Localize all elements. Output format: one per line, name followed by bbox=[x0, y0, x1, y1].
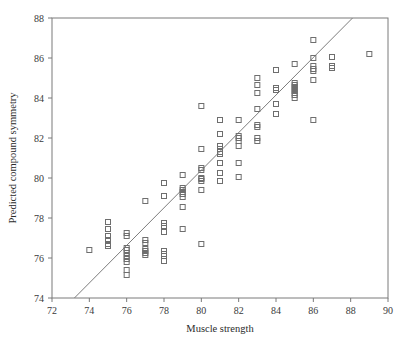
scatter-plot-figure: 72747678808284868890 7476788082848688 Mu… bbox=[0, 0, 412, 339]
data-point-marker bbox=[218, 132, 223, 137]
data-point-marker bbox=[311, 38, 316, 43]
data-point-marker bbox=[180, 205, 185, 210]
x-axis-tick-labels: 72747678808284868890 bbox=[47, 305, 393, 316]
data-point-marker bbox=[311, 78, 316, 83]
axes-frame bbox=[52, 18, 388, 298]
x-tick-label: 90 bbox=[383, 305, 393, 316]
plot-frame bbox=[52, 18, 388, 298]
data-points bbox=[87, 38, 372, 278]
data-point-marker bbox=[274, 112, 279, 117]
data-point-marker bbox=[236, 144, 241, 149]
data-point-marker bbox=[255, 91, 260, 96]
data-point-marker bbox=[255, 83, 260, 88]
y-tick-label: 84 bbox=[34, 93, 44, 104]
y-tick-label: 88 bbox=[34, 13, 44, 24]
x-tick-label: 78 bbox=[159, 305, 169, 316]
data-point-marker bbox=[274, 68, 279, 73]
y-tick-label: 76 bbox=[34, 253, 44, 264]
data-point-marker bbox=[199, 104, 204, 109]
y-axis-title: Predicted compound symmetry bbox=[7, 92, 18, 224]
data-point-marker bbox=[124, 268, 129, 273]
data-point-marker bbox=[180, 173, 185, 178]
data-point-marker bbox=[180, 227, 185, 232]
plot-canvas: 72747678808284868890 7476788082848688 Mu… bbox=[0, 0, 412, 339]
data-point-marker bbox=[236, 118, 241, 123]
data-point-marker bbox=[162, 194, 167, 199]
data-point-marker bbox=[330, 55, 335, 60]
data-point-marker bbox=[255, 76, 260, 81]
x-tick-label: 84 bbox=[271, 305, 281, 316]
x-tick-label: 74 bbox=[84, 305, 94, 316]
y-tick-label: 86 bbox=[34, 53, 44, 64]
y-tick-label: 78 bbox=[34, 213, 44, 224]
x-tick-label: 86 bbox=[308, 305, 318, 316]
data-point-marker bbox=[143, 199, 148, 204]
data-point-marker bbox=[255, 107, 260, 112]
data-point-marker bbox=[218, 171, 223, 176]
x-axis-title: Muscle strength bbox=[186, 323, 254, 334]
y-tick-label: 82 bbox=[34, 133, 44, 144]
data-point-marker bbox=[236, 175, 241, 180]
x-tick-label: 80 bbox=[196, 305, 206, 316]
data-point-marker bbox=[199, 188, 204, 193]
y-axis-ticks bbox=[48, 18, 52, 298]
data-point-marker bbox=[199, 242, 204, 247]
data-point-marker bbox=[87, 248, 92, 253]
y-tick-label: 80 bbox=[34, 173, 44, 184]
data-point-marker bbox=[162, 181, 167, 186]
data-point-marker bbox=[106, 227, 111, 232]
data-point-marker bbox=[218, 161, 223, 166]
data-point-marker bbox=[218, 118, 223, 123]
x-tick-label: 76 bbox=[122, 305, 132, 316]
data-point-marker bbox=[274, 102, 279, 107]
x-axis-ticks bbox=[52, 298, 388, 302]
x-tick-label: 72 bbox=[47, 305, 57, 316]
x-tick-label: 88 bbox=[346, 305, 356, 316]
data-point-marker bbox=[162, 259, 167, 264]
data-point-marker bbox=[218, 179, 223, 184]
x-tick-label: 82 bbox=[234, 305, 244, 316]
data-point-marker bbox=[106, 220, 111, 225]
data-point-marker bbox=[311, 118, 316, 123]
y-axis-tick-labels: 7476788082848688 bbox=[34, 13, 44, 304]
data-point-marker bbox=[236, 161, 241, 166]
data-point-marker bbox=[162, 230, 167, 235]
data-point-marker bbox=[124, 273, 129, 278]
data-point-marker bbox=[199, 147, 204, 152]
data-point-marker bbox=[367, 52, 372, 57]
data-point-marker bbox=[292, 62, 297, 67]
y-tick-label: 74 bbox=[34, 293, 44, 304]
